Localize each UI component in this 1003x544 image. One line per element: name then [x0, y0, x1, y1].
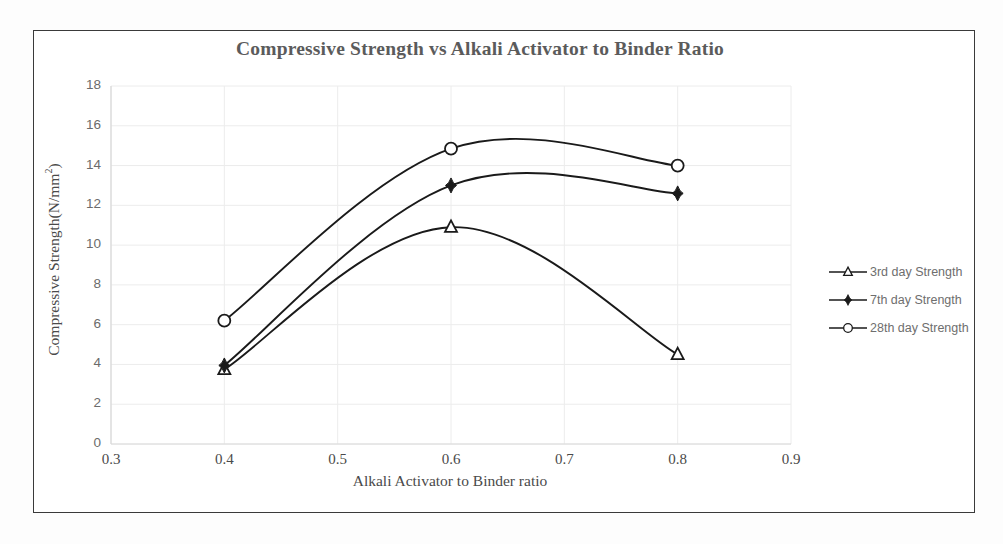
- y-axis-title: Compressive Strength(N/mm2): [43, 110, 62, 410]
- legend-item-label: 7th day Strength: [868, 293, 962, 307]
- x-tick-label: 0.4: [201, 451, 247, 468]
- x-tick-label: 0.8: [655, 451, 701, 468]
- legend-item[interactable]: 28th day Strength: [828, 314, 978, 342]
- y-axis-title-tail: ): [45, 163, 62, 168]
- legend-marker-open-circle-icon: [828, 319, 868, 337]
- y-tick-label: 0: [67, 435, 101, 450]
- x-axis-title: Alkali Activator to Binder ratio: [230, 472, 670, 490]
- chart-legend: 3rd day Strength7th day Strength28th day…: [828, 258, 978, 342]
- x-tick-label: 0.3: [88, 451, 134, 468]
- legend-item[interactable]: 7th day Strength: [828, 286, 978, 314]
- y-tick-label: 14: [67, 157, 101, 172]
- legend-item-label: 28th day Strength: [868, 321, 969, 335]
- y-tick-label: 10: [67, 236, 101, 251]
- y-tick-label: 18: [67, 77, 101, 92]
- x-tick-label: 0.5: [315, 451, 361, 468]
- chart-screenshot: Compressive Strength vs Alkali Activator…: [0, 0, 1003, 544]
- legend-marker-filled-diamond-icon: [828, 291, 868, 309]
- legend-marker-open-triangle-icon: [828, 263, 868, 281]
- y-tick-label: 8: [67, 276, 101, 291]
- y-tick-label: 6: [67, 316, 101, 331]
- y-axis-title-text: Compressive Strength(N/mm: [45, 174, 62, 356]
- plot-area-wrapper: 181614121086420 0.30.40.50.60.70.80.9 Co…: [0, 0, 1003, 544]
- y-tick-label: 2: [67, 395, 101, 410]
- legend-item-label: 3rd day Strength: [868, 265, 962, 279]
- y-tick-label: 12: [67, 196, 101, 211]
- y-tick-label: 4: [67, 355, 101, 370]
- y-axis-title-superscript: 2: [43, 169, 54, 174]
- x-tick-label: 0.6: [428, 451, 474, 468]
- y-tick-label: 16: [67, 117, 101, 132]
- x-tick-label: 0.7: [541, 451, 587, 468]
- gridlines: [111, 86, 791, 444]
- legend-item[interactable]: 3rd day Strength: [828, 258, 978, 286]
- x-tick-label: 0.9: [768, 451, 814, 468]
